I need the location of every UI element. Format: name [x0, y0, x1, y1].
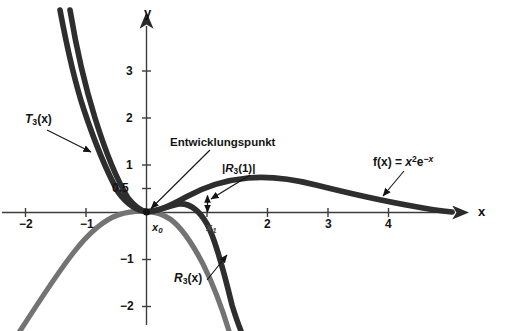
y-tick-label-2: 2 [126, 112, 133, 124]
remainder-curve-label: R3(x) [174, 272, 202, 286]
development-point-marker [143, 208, 150, 215]
f-label-e: e [417, 155, 424, 169]
x-tick-label-minus1: −1 [80, 218, 94, 230]
taylor-curve-label: T3(x) [25, 113, 52, 127]
y-tick-label-minus2: −2 [120, 300, 134, 312]
y-tick-label-3: 3 [126, 65, 133, 77]
point-label-x0-sub: 0 [158, 226, 162, 235]
taylor-curve-leader [47, 130, 91, 152]
x-tick-label-2: 2 [264, 218, 271, 230]
point-label-x0: x0 [152, 222, 163, 235]
taylor-series-figure: y x 3 2 1 0.5 −1 −2 −2 −1 2 3 4 x0 x1 En… [0, 0, 505, 331]
remainder-at-one-R: R [225, 162, 233, 174]
remainder-label-R: R [174, 271, 183, 285]
x-axis-label: x [478, 205, 485, 218]
remainder-at-one-arg: (1) [238, 162, 252, 174]
f-label-e-exponent: −x [424, 154, 434, 164]
entwicklungspunkt-label: Entwicklungspunkt [170, 137, 275, 149]
f-label-prefix: f(x) = [373, 155, 405, 169]
remainder-at-one-label: |R3(1)| [222, 163, 255, 176]
f-curve-label: f(x) = x2e−x [373, 155, 433, 168]
x-tick-label-minus2: −2 [19, 218, 33, 230]
remainder-label-arg: (x) [187, 271, 202, 285]
point-label-x1-sub: 1 [212, 226, 216, 235]
x-tick-label-4: 4 [385, 218, 392, 230]
y-axis-label: y [144, 6, 151, 19]
point-label-x1: x1 [206, 222, 217, 235]
taylor-label-arg: (x) [37, 112, 52, 126]
f-curve-leader [383, 171, 404, 196]
remainder-bar-right: | [252, 162, 255, 174]
y-tick-label-1: 1 [126, 159, 133, 171]
y-tick-label-0point5: 0.5 [112, 182, 129, 194]
x-tick-label-3: 3 [325, 218, 332, 230]
y-tick-label-minus1: −1 [120, 253, 134, 265]
